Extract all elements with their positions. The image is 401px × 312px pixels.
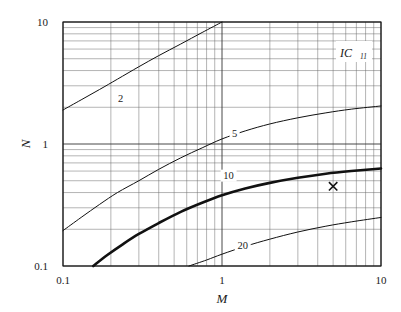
curve-label-20: 20 xyxy=(237,240,248,251)
curve-label-5: 5 xyxy=(232,128,237,139)
y-tick-label-mid: 1 xyxy=(43,138,49,150)
curve-label-10: 10 xyxy=(223,170,234,181)
curve-label-2: 2 xyxy=(118,93,123,104)
x-axis-title: M xyxy=(216,291,229,306)
corner-identifier-text: IC xyxy=(339,46,353,60)
y-tick-label-bottom: 0.1 xyxy=(34,260,48,272)
corner-identifier-subscript: 11 xyxy=(360,52,367,61)
x-tick-label-left: 0.1 xyxy=(56,274,70,286)
x-tick-label-mid: 1 xyxy=(219,274,225,286)
x-tick-label-right: 10 xyxy=(376,274,388,286)
y-tick-label-top: 10 xyxy=(37,16,49,28)
figure-container: 251020 10 1 0.1 0.1 1 10 M N IC 11 xyxy=(0,0,401,312)
log-log-chart: 251020 10 1 0.1 0.1 1 10 M N IC 11 xyxy=(0,0,401,312)
corner-identifier: IC 11 xyxy=(336,41,372,62)
y-axis-title: N xyxy=(18,138,33,149)
